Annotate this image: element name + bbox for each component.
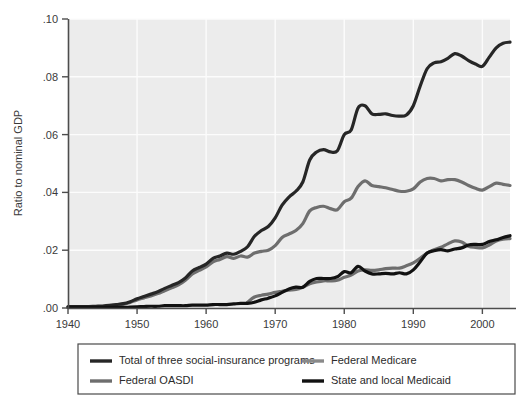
legend-label: State and local Medicaid	[331, 374, 451, 386]
legend-label: Federal OASDI	[119, 374, 194, 386]
legend-label: Total of three social-insurance programs	[119, 354, 315, 366]
x-tick-label: 1970	[263, 318, 287, 330]
x-tick-label: 2000	[470, 318, 494, 330]
x-tick-label: 1960	[194, 318, 218, 330]
y-tick-label: .02	[43, 244, 58, 256]
chart-figure: .00.02.04.06.08.10 194019501960197019801…	[0, 0, 525, 399]
y-tick-label: .06	[43, 129, 58, 141]
x-tick-label: 1980	[332, 318, 356, 330]
y-tick-label: .00	[43, 302, 58, 314]
legend-box	[78, 344, 515, 394]
y-tick-label: .10	[43, 13, 58, 25]
ratio-to-gdp-line-chart: .00.02.04.06.08.10 194019501960197019801…	[0, 0, 525, 399]
y-tick-label: .08	[43, 71, 58, 83]
x-tick-label: 1990	[401, 318, 425, 330]
legend-label: Federal Medicare	[331, 354, 417, 366]
y-tick-label: .04	[43, 186, 58, 198]
y-axis-title: Ratio to nominal GDP	[12, 110, 24, 216]
x-tick-label: 1950	[125, 318, 149, 330]
x-tick-label: 1940	[56, 318, 80, 330]
